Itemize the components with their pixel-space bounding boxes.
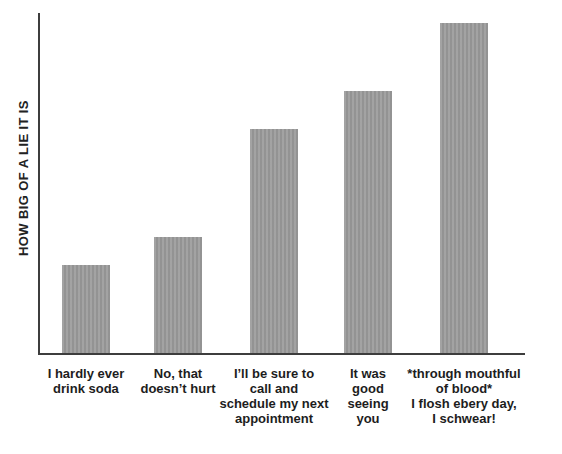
x-axis-line	[38, 353, 525, 355]
x-axis-label-line: doesn’t hurt	[140, 381, 215, 396]
x-axis-label-line: you	[347, 411, 388, 426]
x-axis-label-2: No, thatdoesn’t hurt	[140, 366, 215, 396]
x-axis-label-5: *through mouthfulof blood*I flosh ebery …	[407, 366, 520, 426]
bar-5	[440, 23, 488, 353]
x-axis-label-line: It was	[347, 366, 388, 381]
x-axis-label-line: call and	[219, 381, 328, 396]
x-axis-label-4: It wasgoodseeingyou	[347, 366, 388, 426]
x-axis-label-line: drink soda	[48, 381, 125, 396]
bar-4	[344, 91, 392, 353]
x-axis-label-line: appointment	[219, 411, 328, 426]
x-axis-label-line: I flosh ebery day,	[407, 396, 520, 411]
x-axis-label-1: I hardly everdrink soda	[48, 366, 125, 396]
x-axis-label-line: I’ll be sure to	[219, 366, 328, 381]
x-axis-label-line: No, that	[140, 366, 215, 381]
y-axis-line	[38, 13, 40, 355]
x-axis-label-line: good	[347, 381, 388, 396]
x-axis-label-line: *through mouthful	[407, 366, 520, 381]
y-axis-label: HOW BIG OF A LIE IT IS	[16, 100, 31, 256]
x-axis-label-line: I hardly ever	[48, 366, 125, 381]
bar-3	[250, 129, 298, 353]
bar-2	[154, 237, 202, 353]
x-axis-label-line: seeing	[347, 396, 388, 411]
bar-1	[62, 265, 110, 353]
x-axis-label-line: I schwear!	[407, 411, 520, 426]
x-axis-label-line: of blood*	[407, 381, 520, 396]
x-axis-label-line: schedule my next	[219, 396, 328, 411]
x-axis-label-3: I’ll be sure tocall andschedule my nexta…	[219, 366, 328, 426]
dentist-lies-bar-chart: HOW BIG OF A LIE IT IS I hardly everdrin…	[0, 0, 562, 454]
